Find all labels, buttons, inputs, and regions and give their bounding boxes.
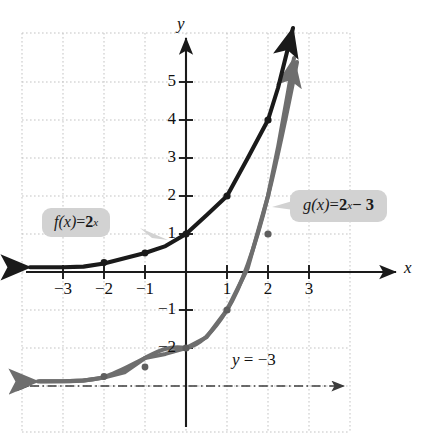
asymptote-label-var: y — [232, 350, 240, 369]
y-tick-label-neg1: −1 — [150, 299, 176, 319]
asymptote-label: y = −3 — [232, 350, 276, 370]
asymptote-label-value: −3 — [258, 350, 276, 369]
x-tick-label-neg3: −3 — [51, 279, 75, 299]
x-tick-label-1: 1 — [217, 279, 237, 299]
g-label-equals: = — [330, 197, 339, 214]
f-label-exponent: x — [93, 217, 98, 228]
function-label-f: f(x) = 2x — [42, 208, 110, 237]
x-tick-label-neg2: −2 — [92, 279, 116, 299]
g-label-name: g — [303, 197, 311, 214]
y-tick-label-3: 3 — [158, 147, 176, 167]
x-tick-label-2: 2 — [258, 279, 278, 299]
x-tick-label-3: 3 — [299, 279, 319, 299]
graph-figure: y x −3 −2 −1 1 2 3 5 4 3 2 1 −1 −2 f(x) … — [0, 0, 428, 442]
function-label-g: g(x) = 2x − 3 — [290, 190, 387, 222]
x-axis-label: x — [404, 258, 412, 278]
asymptote-label-equals: = — [240, 350, 258, 369]
y-tick-label-4: 4 — [158, 109, 176, 129]
y-tick-label-neg2: −2 — [150, 337, 176, 357]
y-tick-label-2: 2 — [158, 185, 176, 205]
x-tick-label-neg1: −1 — [133, 279, 157, 299]
f-label-equals: = — [76, 214, 85, 230]
y-tick-label-5: 5 — [158, 71, 176, 91]
y-tick-label-1: 1 — [158, 223, 176, 243]
g-label-base: 2 — [339, 197, 347, 214]
f-label-arg: (x) — [58, 214, 76, 230]
g-label-arg: (x) — [311, 197, 329, 214]
g-label-tail: − 3 — [352, 197, 374, 214]
y-axis-label: y — [177, 14, 185, 34]
